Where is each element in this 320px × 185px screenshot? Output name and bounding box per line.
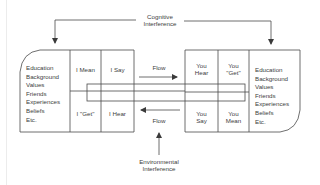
cognitive-arrow-right [184, 21, 271, 44]
sender-background-list: Education Background Values Friends Expe… [26, 64, 60, 124]
environmental-interference-label: Environmental Interference [133, 158, 185, 172]
cell-you-get: You"Get" [218, 62, 249, 76]
receiver-background-list: Education Background Values Friends Expe… [255, 66, 289, 126]
channel-rect [87, 84, 245, 101]
cell-you-say: YouSay [185, 110, 218, 124]
cognitive-interference-label: Cognitive Interference [136, 13, 184, 27]
flow-backward-label: Flow [140, 117, 178, 124]
cell-i-get: I "Get" [70, 110, 101, 117]
cell-you-hear: YouHear [185, 62, 218, 76]
cognitive-arrow-left [55, 20, 136, 43]
cell-i-mean: I Mean [70, 66, 101, 73]
cell-i-hear: I Hear [101, 110, 134, 117]
cell-i-say: I Say [101, 66, 134, 73]
flow-forward-label: Flow [140, 64, 178, 71]
cell-you-mean: YouMean [218, 110, 249, 124]
